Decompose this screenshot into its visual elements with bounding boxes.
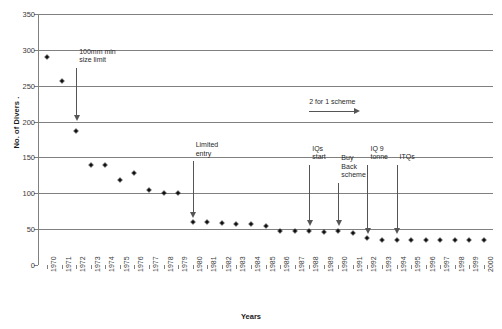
annotation-label: 100mm min size limit <box>79 48 116 65</box>
y-tick-label-0: 0 <box>31 261 35 270</box>
x-tick-mark <box>440 265 441 269</box>
annotation-label: ITQs <box>400 153 415 162</box>
gridline-250 <box>38 86 493 87</box>
annotation-label: Limited entry <box>196 141 219 158</box>
x-tick-mark <box>105 265 106 269</box>
x-tick-label-2000: 2000 <box>487 256 494 272</box>
data-point <box>395 238 398 241</box>
x-tick-label-1985: 1985 <box>269 256 276 272</box>
x-tick-label-1983: 1983 <box>239 256 246 272</box>
x-tick-mark <box>91 265 92 269</box>
x-tick-mark <box>134 265 135 269</box>
data-point <box>468 238 471 241</box>
x-tick-label-1970: 1970 <box>50 256 57 272</box>
x-tick-mark <box>222 265 223 269</box>
annotation-label: IQs start <box>312 145 326 162</box>
x-tick-label-1984: 1984 <box>254 256 261 272</box>
x-tick-mark <box>295 265 296 269</box>
x-tick-mark <box>266 265 267 269</box>
data-point <box>424 238 427 241</box>
data-point <box>75 129 78 132</box>
x-tick-mark <box>47 265 48 269</box>
data-point <box>410 238 413 241</box>
data-point <box>264 224 267 227</box>
data-point <box>147 188 150 191</box>
x-tick-mark <box>411 265 412 269</box>
x-axis-title: Years <box>0 312 502 321</box>
x-tick-label-1971: 1971 <box>65 256 72 272</box>
annotation-label: 2 for 1 scheme <box>309 98 355 107</box>
data-point <box>381 238 384 241</box>
x-tick-label-1997: 1997 <box>443 256 450 272</box>
annotation-label: IQ 9 tonne <box>370 145 388 162</box>
x-tick-mark <box>76 265 77 269</box>
annotation-arrow-right <box>309 111 355 112</box>
x-tick-mark <box>62 265 63 269</box>
data-point <box>60 79 63 82</box>
data-point <box>439 238 442 241</box>
data-point <box>118 179 121 182</box>
x-tick-label-1986: 1986 <box>283 256 290 272</box>
x-tick-mark <box>164 265 165 269</box>
y-tick-label-300: 300 <box>22 45 35 54</box>
x-tick-mark <box>338 265 339 269</box>
data-point <box>249 223 252 226</box>
y-axis-title: No. of Divers . <box>12 83 21 163</box>
x-tick-mark <box>353 265 354 269</box>
x-tick-label-1982: 1982 <box>225 256 232 272</box>
x-tick-label-1992: 1992 <box>370 256 377 272</box>
y-tick-label-250: 250 <box>22 81 35 90</box>
data-point <box>308 229 311 232</box>
x-tick-mark <box>251 265 252 269</box>
x-tick-label-1999: 1999 <box>472 256 479 272</box>
x-tick-mark <box>324 265 325 269</box>
data-point <box>483 238 486 241</box>
data-point <box>322 231 325 234</box>
data-point <box>206 220 209 223</box>
gridline-50 <box>38 229 493 230</box>
x-tick-mark <box>149 265 150 269</box>
annotation-arrow-down <box>76 68 77 116</box>
x-tick-mark <box>484 265 485 269</box>
data-point <box>351 232 354 235</box>
data-point <box>89 163 92 166</box>
y-tick-label-200: 200 <box>22 117 35 126</box>
gridline-150 <box>38 157 493 158</box>
x-tick-label-1976: 1976 <box>137 256 144 272</box>
data-point <box>177 192 180 195</box>
annotation-label: Buy Back scheme <box>341 154 366 180</box>
annotation-arrow-down <box>193 161 194 213</box>
annotation-arrow-down <box>367 165 368 230</box>
data-point <box>366 236 369 239</box>
x-tick-label-1988: 1988 <box>312 256 319 272</box>
x-tick-mark <box>382 265 383 269</box>
x-tick-label-1990: 1990 <box>341 256 348 272</box>
x-tick-mark <box>309 265 310 269</box>
annotation-arrow-down <box>397 165 398 230</box>
x-tick-mark <box>207 265 208 269</box>
x-tick-label-1991: 1991 <box>356 256 363 272</box>
x-tick-mark <box>367 265 368 269</box>
data-point <box>46 56 49 59</box>
data-point <box>453 238 456 241</box>
x-tick-label-1979: 1979 <box>181 256 188 272</box>
x-tick-label-1994: 1994 <box>400 256 407 272</box>
x-tick-label-1989: 1989 <box>327 256 334 272</box>
x-tick-label-1993: 1993 <box>385 256 392 272</box>
data-point <box>133 172 136 175</box>
data-point <box>293 229 296 232</box>
x-tick-mark <box>280 265 281 269</box>
x-tick-mark <box>120 265 121 269</box>
y-tick-label-50: 50 <box>27 225 35 234</box>
annotation-arrow-down <box>309 165 310 221</box>
y-tick-label-100: 100 <box>22 189 35 198</box>
x-tick-label-1973: 1973 <box>94 256 101 272</box>
data-point <box>235 223 238 226</box>
x-tick-mark <box>178 265 179 269</box>
x-tick-label-1996: 1996 <box>429 256 436 272</box>
x-tick-mark <box>397 265 398 269</box>
x-tick-label-1978: 1978 <box>167 256 174 272</box>
y-tick-label-150: 150 <box>22 153 35 162</box>
data-point <box>104 163 107 166</box>
x-tick-label-1972: 1972 <box>79 256 86 272</box>
